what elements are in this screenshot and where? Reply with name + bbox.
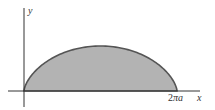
x-axis-label: x [197,93,201,103]
cycloid-diagram: y x 2πa [0,0,215,110]
cycloid-arch-region [24,46,177,91]
x-tick-label-2pi-a: 2πa [168,93,183,103]
x-tick-a: a [178,92,183,103]
y-axis-label: y [28,6,32,16]
